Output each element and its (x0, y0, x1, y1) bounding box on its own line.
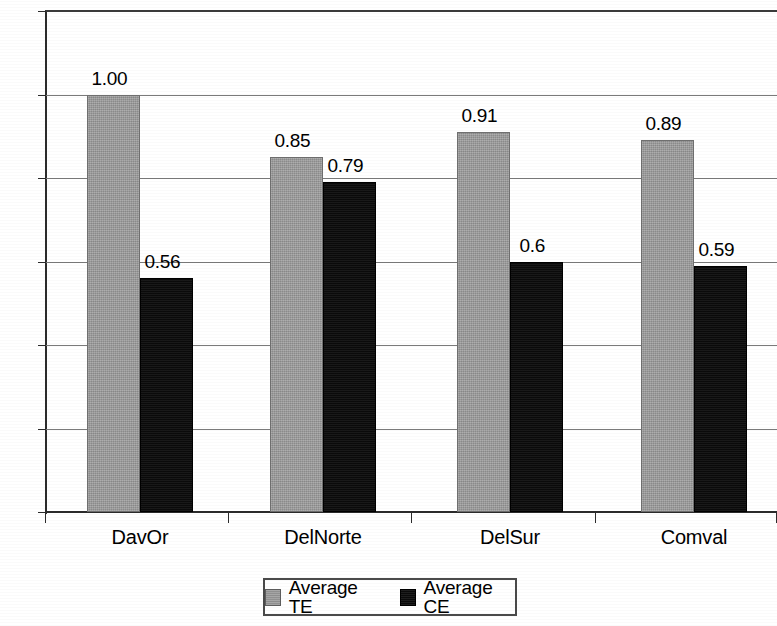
y-tick-0.4 (38, 345, 46, 346)
legend-item-average-te[interactable]: Average TE (265, 578, 378, 616)
y-tick-0.2 (38, 429, 46, 430)
x-axis-label-delsur: DelSur (440, 526, 580, 548)
bar-value-average-ce-delsur: 0.6 (520, 236, 546, 255)
bar-average-ce-comval[interactable] (694, 266, 747, 512)
black-square-icon (400, 589, 416, 606)
bar-average-te-comval[interactable] (641, 140, 694, 512)
x-tick-2 (411, 512, 412, 523)
gridline-1.0 (45, 95, 777, 96)
y-tick-1.2 (38, 11, 46, 12)
bar-value-average-ce-davor: 0.56 (145, 252, 181, 271)
bar-value-average-ce-comval: 0.59 (699, 240, 735, 259)
plot-area: 1.000.560.850.790.910.60.890.59 (45, 11, 777, 512)
legend-item-average-ce[interactable]: Average CE (400, 578, 515, 616)
x-tick-3 (595, 512, 596, 523)
bar-average-te-davor[interactable] (87, 95, 140, 513)
bar-average-ce-delnorte[interactable] (323, 182, 376, 512)
bar-value-average-te-delnorte: 0.85 (275, 131, 311, 150)
x-axis-label-delnorte: DelNorte (253, 526, 393, 548)
gray-square-icon (265, 589, 281, 606)
gridline-1.2 (45, 10, 777, 12)
bar-average-ce-delsur[interactable] (510, 262, 563, 513)
x-axis-label-davor: DavOr (70, 526, 210, 548)
bar-value-average-ce-delnorte: 0.79 (328, 156, 364, 175)
bar-average-te-delnorte[interactable] (270, 157, 323, 512)
bar-value-average-te-comval: 0.89 (646, 114, 682, 133)
bar-chart: 1.000.560.850.790.910.60.890.59 Average … (0, 0, 777, 626)
bar-average-te-delsur[interactable] (457, 132, 510, 512)
legend-label-average-ce: Average CE (424, 578, 515, 616)
bar-value-average-te-davor: 1.00 (92, 69, 128, 88)
x-tick-1 (228, 512, 229, 523)
chart-legend: Average TE Average CE (263, 578, 517, 616)
y-tick-0.6 (38, 262, 46, 263)
y-tick-0.8 (38, 178, 46, 179)
x-axis-label-comval: Comval (624, 526, 764, 548)
x-tick-0 (45, 512, 46, 523)
legend-label-average-te: Average TE (289, 578, 378, 616)
y-tick-1.0 (38, 95, 46, 96)
bar-value-average-te-delsur: 0.91 (462, 106, 498, 125)
bar-average-ce-davor[interactable] (140, 278, 193, 512)
